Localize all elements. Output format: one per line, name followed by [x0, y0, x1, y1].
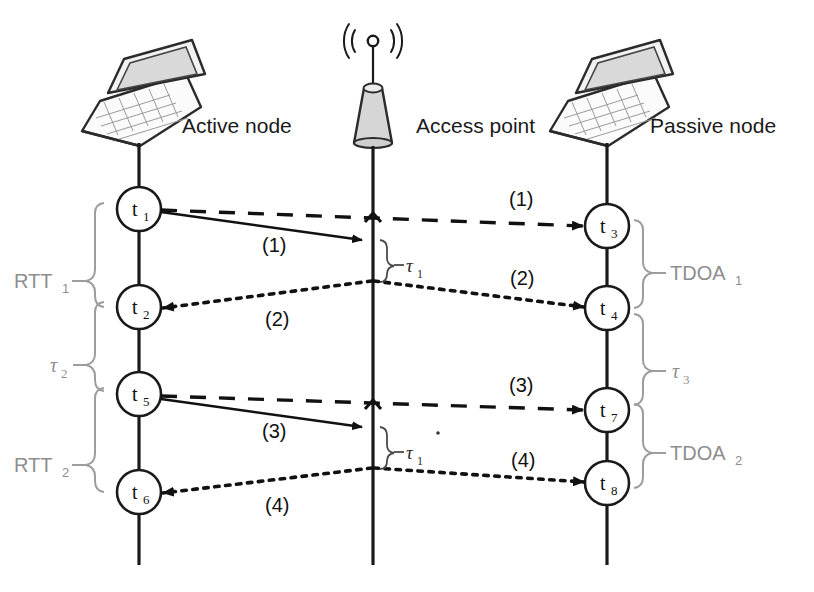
bracket-label-tau2: τ: [50, 354, 58, 376]
node-t8-label: t: [600, 472, 606, 494]
bracket-label-tau3: τ: [672, 360, 680, 382]
bracket-tdoa1: TDOA 1: [634, 220, 742, 308]
message-4-dotted-arrow-left: [163, 468, 372, 493]
bracket-tdoa2: TDOA 2: [634, 404, 742, 488]
bracket-label-tdoa1-subscript: 1: [735, 273, 742, 288]
node-t1[interactable]: t 1: [117, 187, 161, 231]
node-t6-subscript: 6: [143, 492, 150, 507]
node-t8[interactable]: t 8: [585, 461, 629, 505]
access-point-antenna-icon: [344, 24, 402, 148]
bracket-label-tdoa1: TDOA: [670, 262, 726, 284]
lane-active-node: Active node t 1 t 2 t 5 t 6: [82, 40, 292, 565]
message-label-2-left: (2): [265, 308, 289, 330]
message-2-dotted-arrow-left: [163, 281, 372, 308]
bracket-tau3: τ 3: [634, 314, 690, 405]
node-t8-subscript: 8: [611, 483, 618, 498]
node-t4-subscript: 4: [611, 308, 618, 323]
message-label-1-solid: (1): [262, 234, 286, 256]
bracket-rtt2: RTT 2: [14, 388, 104, 492]
bracket-label-rtt1-subscript: 1: [62, 281, 69, 296]
node-t1-label: t: [132, 198, 138, 220]
bracket-label-tdoa2-subscript: 2: [735, 453, 742, 468]
node-t3-subscript: 3: [611, 226, 618, 241]
bracket-label-tau3-subscript: 3: [683, 372, 690, 387]
node-t7-subscript: 7: [611, 410, 618, 425]
bracket-label-tau2-subscript: 2: [61, 366, 68, 381]
timing-diagram: Active node t 1 t 2 t 5 t 6: [0, 0, 814, 592]
bracket-tau2: τ 2: [50, 302, 104, 391]
bracket-label-tau1-upper: τ: [406, 255, 414, 276]
message-label-1-dashed: (1): [509, 188, 533, 210]
lane-access-point: Access point: [344, 24, 535, 565]
lane-passive-node: Passive node t 3 t 4 t 7 t 8: [550, 40, 776, 565]
diagram-canvas: Active node t 1 t 2 t 5 t 6: [0, 0, 814, 592]
bracket-label-tau1-lower-subscript: 1: [417, 454, 423, 468]
bracket-label-rtt2: RTT: [14, 454, 53, 476]
bracket-tau1-lower: τ 1: [380, 427, 423, 469]
node-t7[interactable]: t 7: [585, 388, 629, 432]
message-label-4-left: (4): [265, 494, 289, 516]
node-t3[interactable]: t 3: [585, 204, 629, 248]
node-t5[interactable]: t 5: [117, 372, 161, 416]
node-t5-subscript: 5: [143, 394, 150, 409]
bracket-rtt1: RTT 1: [14, 203, 104, 307]
scan-speck: [436, 431, 440, 435]
message-label-2-right: (2): [510, 267, 534, 289]
node-t3-label: t: [600, 215, 606, 237]
bracket-label-tau1-upper-subscript: 1: [417, 267, 423, 281]
node-t2[interactable]: t 2: [117, 285, 161, 329]
bracket-label-rtt2-subscript: 2: [62, 465, 69, 480]
lane-label-passive-node: Passive node: [650, 114, 776, 137]
bracket-label-tau1-lower: τ: [406, 442, 414, 463]
node-t4-label: t: [600, 297, 606, 319]
message-label-3-solid: (3): [262, 420, 286, 442]
lane-label-access-point: Access point: [416, 114, 535, 137]
lane-label-active-node: Active node: [182, 114, 292, 137]
message-2-dotted-arrow-right: [374, 281, 584, 307]
node-t1-subscript: 1: [143, 209, 150, 224]
bracket-label-tdoa2: TDOA: [670, 442, 726, 464]
message-4-dotted-arrow-right: [374, 468, 584, 482]
node-t6-label: t: [132, 481, 138, 503]
message-label-4-right: (4): [511, 449, 535, 471]
node-t7-label: t: [600, 399, 606, 421]
message-label-3-dashed: (3): [509, 374, 533, 396]
node-t6[interactable]: t 6: [117, 470, 161, 514]
bracket-label-rtt1: RTT: [14, 270, 53, 292]
node-t5-label: t: [132, 383, 138, 405]
bracket-tau1-upper: τ 1: [380, 240, 423, 282]
node-t4[interactable]: t 4: [585, 286, 629, 330]
node-t2-label: t: [132, 296, 138, 318]
node-t2-subscript: 2: [143, 307, 150, 322]
